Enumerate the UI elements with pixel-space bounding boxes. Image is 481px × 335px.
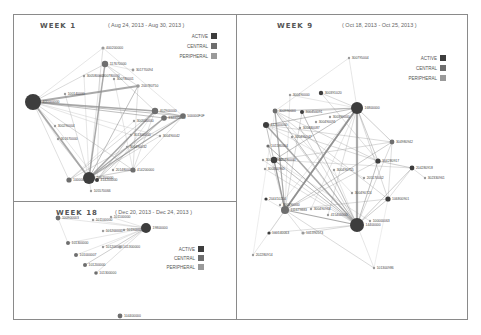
graph-node-peripheral <box>83 75 85 77</box>
node-label: 104400000 <box>124 314 141 318</box>
node-label: 101300000 <box>123 245 140 249</box>
node-label: 19800000 <box>153 226 168 230</box>
node-label: 100140063 <box>272 231 289 235</box>
node-label: 201480000 <box>116 168 133 172</box>
node-label: 300780001 <box>117 77 134 81</box>
legend-swatch-central <box>440 65 446 71</box>
graph-node-central <box>56 216 61 221</box>
graph-edge <box>321 93 378 161</box>
graph-node-peripheral <box>123 229 125 231</box>
legend-swatch-active <box>440 55 446 61</box>
node-label: 304980942 <box>396 140 413 144</box>
graph-node-peripheral <box>64 93 66 95</box>
node-label: 204280918 <box>416 166 433 170</box>
node-label: 301770094 <box>136 68 153 72</box>
graph-node-peripheral <box>102 246 104 248</box>
graph-node-active <box>375 158 380 163</box>
node-label: 14400000 <box>366 223 381 227</box>
graph-node-peripheral <box>315 121 317 123</box>
graph-node-peripheral <box>262 159 264 161</box>
node-label: 300490917 <box>266 158 283 162</box>
graph-node-active <box>83 172 95 184</box>
graph-node-central <box>118 314 123 319</box>
graph-node-peripheral <box>130 134 132 136</box>
graph-node-active <box>267 231 270 234</box>
graph-edge <box>58 139 89 178</box>
node-label: 300400960 <box>268 167 285 171</box>
node-label: 101300000 <box>72 241 89 245</box>
graph-node-active <box>263 122 269 128</box>
node-label: 300580000 <box>87 74 104 78</box>
graph-node-peripheral <box>101 46 104 49</box>
node-label: 301670000 <box>61 137 78 141</box>
legend-label-central: CENTRAL <box>187 44 209 49</box>
week1-nodes: 4002000001176700003005800003007800003017… <box>25 46 205 193</box>
node-label: 100000063 <box>373 219 390 223</box>
graph-node-peripheral <box>113 78 115 80</box>
graph-node-peripheral <box>159 135 161 137</box>
graph-node-peripheral <box>351 192 353 194</box>
graph-node-central <box>66 241 70 245</box>
graph-node-active <box>25 94 41 110</box>
graph-node-peripheral <box>102 230 104 232</box>
node-label: 300490755 <box>337 168 354 172</box>
node-label: 300480087 <box>303 126 320 130</box>
graph-edge <box>103 48 183 116</box>
legend-swatch-peripheral <box>440 75 446 81</box>
node-label: 300390000 <box>333 115 350 119</box>
week1-edges <box>33 48 183 191</box>
graph-node-peripheral <box>424 177 426 179</box>
graph-edge <box>357 108 392 142</box>
graph-node-peripheral <box>369 220 371 222</box>
week1-legend: ACTIVECENTRALPERIPHERAL <box>179 33 217 59</box>
week9-edges <box>253 58 425 268</box>
graph-node-central <box>94 271 98 275</box>
graph-node-active <box>319 91 323 95</box>
legend-swatch-peripheral <box>211 53 217 59</box>
graph-edge <box>133 116 183 170</box>
graph-node-peripheral <box>92 219 94 221</box>
legend-label-active: ACTIVE <box>179 247 195 252</box>
graph-node-central <box>180 113 186 119</box>
graph-edge <box>55 126 97 180</box>
node-label: 202280914 <box>256 253 273 257</box>
graph-edge <box>275 111 378 161</box>
graph-edge <box>349 58 357 108</box>
node-label: 300490047 <box>295 135 312 139</box>
graph-edge <box>275 58 349 111</box>
node-label: 101390573 <box>306 231 323 235</box>
graph-node-peripheral <box>373 267 375 269</box>
legend-swatch-central <box>198 255 204 261</box>
week18-legend: ACTIVECENTRALPERIPHERAL <box>166 246 204 270</box>
node-label: 101180004 <box>271 144 288 148</box>
legend-label-central: CENTRAL <box>174 256 196 261</box>
graph-node-peripheral <box>327 214 329 216</box>
node-label: 300450091 <box>306 110 323 114</box>
node-label: 300391020 <box>325 91 342 95</box>
legend-label-peripheral: PERIPHERAL <box>408 76 437 81</box>
legend-label-peripheral: PERIPHERAL <box>179 54 208 59</box>
week1-range: ( Aug 24, 2013 - Aug 30, 2013 ) <box>108 22 185 28</box>
graph-node-peripheral <box>279 204 281 206</box>
node-label: 101100000 <box>96 218 113 222</box>
legend-label-active: ACTIVE <box>192 34 208 39</box>
node-label: 301300000 <box>134 133 151 137</box>
node-label: 117670000 <box>110 62 127 66</box>
node-label: 300490724 <box>355 191 372 195</box>
node-label: 101300000 <box>99 271 116 275</box>
graph-node-peripheral <box>329 116 331 118</box>
node-label: 400200000 <box>106 46 123 50</box>
graph-node-central <box>152 108 158 114</box>
graph-edge <box>266 125 392 142</box>
graph-node-peripheral <box>363 177 365 179</box>
legend-swatch-central <box>211 43 217 49</box>
graph-node-central <box>273 109 278 114</box>
graph-node-peripheral <box>110 216 112 218</box>
week9-range: ( Oct 18, 2013 - Oct 25, 2013 ) <box>342 22 417 28</box>
node-label: 300490032 <box>130 145 147 149</box>
graph-node-peripheral <box>348 57 350 59</box>
node-label: 100140000 <box>68 92 85 96</box>
graph-node-peripheral <box>118 245 121 248</box>
graph-node-peripheral <box>126 146 128 148</box>
graph-node-central <box>83 263 87 267</box>
